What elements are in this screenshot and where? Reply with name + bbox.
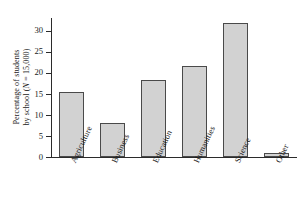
- y-axis-tick-label: 15: [34, 90, 43, 99]
- y-axis-tick-label: 20: [34, 68, 43, 77]
- y-axis-title-line-2-pre: by school (: [22, 89, 31, 126]
- y-axis-tick-label: 30: [34, 26, 43, 35]
- y-axis-title-line-2-post: = 15,000): [22, 48, 31, 83]
- y-axis-title-text: Percentage of students by school (N = 15…: [12, 48, 33, 125]
- x-axis-line: [51, 157, 297, 158]
- bar-chart-figure: Percentage of students by school (N = 15…: [0, 0, 308, 215]
- y-axis-tick-label: 5: [39, 132, 43, 141]
- y-axis-tick-label: 25: [34, 47, 43, 56]
- y-axis-title-sample-size-symbol: N: [22, 83, 31, 89]
- y-axis-tick-label: 10: [34, 111, 43, 120]
- y-axis-title-line-2: by school (N = 15,000): [22, 48, 32, 125]
- y-axis-tick-label: 0: [39, 153, 43, 162]
- y-axis-title: Percentage of students by school (N = 15…: [10, 22, 34, 152]
- y-axis-tick-mark: [46, 157, 52, 158]
- y-axis-title-line-1: Percentage of students: [12, 48, 22, 125]
